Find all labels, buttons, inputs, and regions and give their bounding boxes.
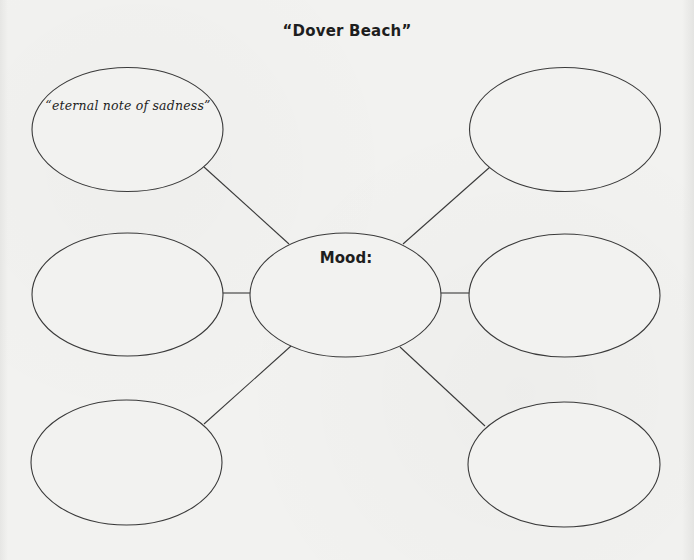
connector-top-left — [204, 167, 289, 244]
node-top-left-text: “eternal note of sadness” — [32, 98, 224, 113]
node-bottom-left[interactable] — [31, 400, 222, 525]
connector-bottom-left — [204, 346, 291, 424]
connector-bottom-right — [400, 347, 485, 426]
node-bottom-right[interactable] — [468, 402, 660, 527]
node-middle-left[interactable] — [32, 233, 223, 356]
node-middle-right[interactable] — [469, 234, 660, 357]
web-diagram — [0, 0, 694, 560]
node-top-right[interactable] — [470, 68, 661, 192]
node-top-left[interactable] — [32, 68, 223, 192]
center-node-label: Mood: — [250, 249, 442, 267]
connector-top-right — [403, 167, 490, 244]
